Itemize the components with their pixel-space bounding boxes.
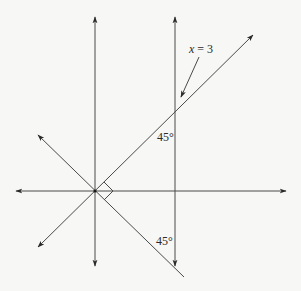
origin-point: [93, 189, 96, 192]
line-label-value: = 3: [194, 42, 213, 56]
geometry-diagram: x = 3 45° 45°: [0, 0, 301, 291]
diagonal-line-positive-slope: [38, 35, 253, 247]
angle-label-lower: 45°: [156, 234, 173, 248]
line-label-x-equals-3: x = 3: [188, 42, 213, 56]
angle-label-upper: 45°: [157, 130, 174, 144]
diagonal-line-negative-slope: [38, 135, 184, 277]
